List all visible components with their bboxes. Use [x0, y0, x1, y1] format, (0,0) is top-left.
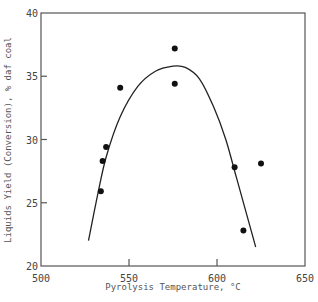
axis-ticks	[41, 76, 217, 266]
y-tick-label: 35	[26, 71, 38, 82]
chart: 5005506006502025303540 Pyrolysis Tempera…	[0, 0, 318, 302]
data-point	[103, 144, 109, 150]
data-point	[172, 45, 178, 51]
axis-tick-labels: 5005506006502025303540	[26, 8, 314, 284]
data-point	[240, 228, 246, 234]
y-tick-label: 30	[26, 135, 38, 146]
data-point	[172, 81, 178, 87]
y-tick-label: 25	[26, 198, 38, 209]
data-point	[98, 188, 104, 194]
data-point	[232, 164, 238, 170]
x-tick-label: 500	[32, 273, 50, 284]
y-axis-title: Liquids Yield (Conversion), % daf coal	[3, 37, 13, 243]
plot-frame	[41, 13, 305, 266]
data-point	[100, 158, 106, 164]
x-axis-title: Pyrolysis Temperature, °C	[105, 282, 240, 292]
data-point	[258, 161, 264, 167]
data-point	[117, 85, 123, 91]
fit-curve	[89, 66, 256, 247]
x-tick-label: 650	[296, 273, 314, 284]
data-points	[98, 45, 264, 233]
y-tick-label: 20	[26, 261, 38, 272]
y-tick-label: 40	[26, 8, 38, 19]
